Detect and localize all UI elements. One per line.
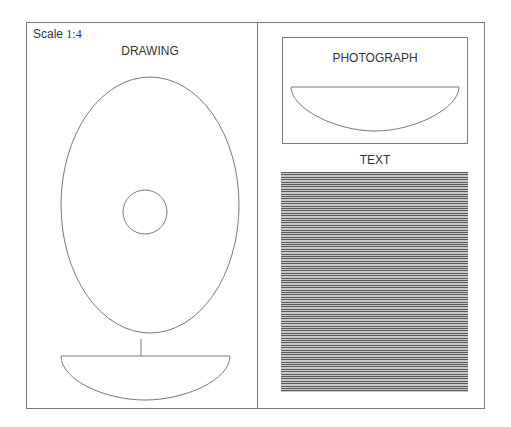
text-title: TEXT (335, 153, 415, 167)
text-block (281, 172, 468, 392)
photograph-title: PHOTOGRAPH (310, 51, 440, 65)
inner-circle (123, 190, 167, 234)
drawing-profile (61, 356, 230, 400)
outer-ellipse (61, 77, 239, 333)
